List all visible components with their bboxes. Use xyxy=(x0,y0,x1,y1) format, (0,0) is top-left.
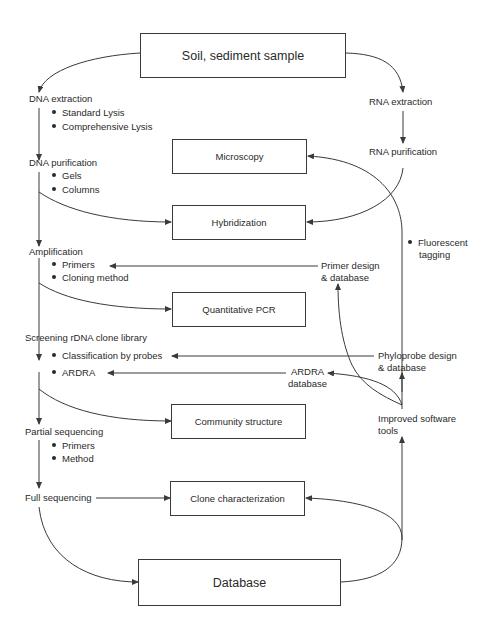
ardra-database-label: ARDRA database xyxy=(288,366,327,389)
soil-sediment-sample-box: Soil, sediment sample xyxy=(140,33,346,78)
bullet-classification-by-probes: Classification by probes xyxy=(52,350,162,361)
clone-characterization-box: Clone characterization xyxy=(170,481,305,516)
bullet-dot-icon xyxy=(52,110,56,114)
amplification-label: Amplification xyxy=(29,246,83,258)
quantitative-pcr-box: Quantitative PCR xyxy=(172,292,306,327)
box-label: Quantitative PCR xyxy=(202,304,275,315)
improved-software-tools-label: Improved software tools xyxy=(378,413,456,436)
primer-design-label: Primer design & database xyxy=(321,260,380,283)
bullet-dot-icon xyxy=(52,187,56,191)
bullet-primers: Primers xyxy=(52,259,95,270)
rdna-workflow-diagram: Soil, sediment sample Microscopy Hybridi… xyxy=(0,0,494,637)
database-box: Database xyxy=(138,559,341,606)
box-label: Database xyxy=(213,576,267,590)
bullet-dot-icon xyxy=(52,124,56,128)
dna-extraction-label: DNA extraction xyxy=(29,93,92,105)
bullet-fluorescent-tagging: Fluorescent xyxy=(408,237,468,248)
bullet-ardra: ARDRA xyxy=(52,367,95,378)
hybridization-box: Hybridization xyxy=(172,205,306,240)
bullet-cloning-method: Cloning method xyxy=(52,272,129,283)
community-structure-box: Community structure xyxy=(171,404,306,439)
box-label: Community structure xyxy=(195,416,283,427)
bullet-method: Method xyxy=(52,453,94,464)
dna-purification-label: DNA purification xyxy=(29,157,97,169)
screening-label: Screening rDNA clone library xyxy=(25,332,147,344)
microscopy-box: Microscopy xyxy=(172,139,307,174)
box-label: Soil, sediment sample xyxy=(182,49,304,63)
full-sequencing-label: Full sequencing xyxy=(25,492,92,504)
rna-purification-label: RNA purification xyxy=(369,146,437,158)
partial-sequencing-label: Partial sequencing xyxy=(25,426,103,438)
box-label: Hybridization xyxy=(212,217,267,228)
bullet-comprehensive-lysis: Comprehensive Lysis xyxy=(52,121,152,132)
box-label: Microscopy xyxy=(215,151,263,162)
bullet-primers-2: Primers xyxy=(52,440,95,451)
bullet-standard-lysis: Standard Lysis xyxy=(52,107,125,118)
fluorescent-tagging-line2: tagging xyxy=(419,249,450,261)
bullet-dot-icon xyxy=(52,456,56,460)
bullet-dot-icon xyxy=(52,173,56,177)
bullet-columns: Columns xyxy=(52,184,100,195)
bullet-dot-icon xyxy=(52,275,56,279)
bullet-dot-icon xyxy=(52,262,56,266)
phyloprobe-design-label: Phyloprobe design & database xyxy=(378,350,457,373)
bullet-gels: Gels xyxy=(52,170,82,181)
bullet-dot-icon xyxy=(52,370,56,374)
box-label: Clone characterization xyxy=(190,493,285,504)
bullet-dot-icon xyxy=(408,240,412,244)
bullet-dot-icon xyxy=(52,443,56,447)
bullet-dot-icon xyxy=(52,353,56,357)
rna-extraction-label: RNA extraction xyxy=(369,96,432,108)
